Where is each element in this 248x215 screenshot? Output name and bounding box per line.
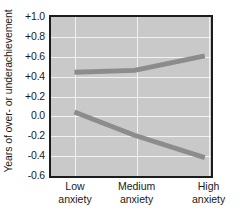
series-lines	[51, 17, 211, 176]
x-tick-label: Mediumanxiety	[118, 180, 155, 206]
y-tick-label: +0.8	[25, 30, 45, 42]
x-tick-label-line2: anxiety	[58, 193, 91, 206]
y-axis-tick-labels: +1.0+0.8+0.6+0.4+0.20.0-0.2-0.4-0.6	[14, 14, 47, 178]
y-axis-title-text: Years of over- or underachievement	[2, 9, 14, 172]
y-tick-label: +0.2	[25, 90, 45, 102]
y-tick-label: -0.4	[28, 149, 45, 161]
series-line-lower-series	[74, 112, 204, 158]
x-tick-label-line1: Medium	[118, 180, 155, 192]
y-tick-label: -0.2	[28, 129, 45, 141]
plot-area	[49, 15, 213, 178]
x-tick-label-line1: Low	[65, 180, 84, 192]
y-tick-label: +0.6	[25, 50, 45, 62]
x-tick-label-line2: anxiety	[118, 193, 155, 206]
plot-inner	[51, 17, 211, 176]
y-tick-label: +0.4	[25, 70, 45, 82]
y-tick-label: +1.0	[25, 10, 45, 22]
x-tick-label-line2: anxiety	[192, 193, 225, 206]
y-tick-label: -0.6	[28, 169, 45, 181]
chart-figure: Years of over- or underachievement +1.0+…	[0, 0, 248, 215]
x-tick-label: Lowanxiety	[58, 180, 91, 206]
x-axis-tick-labels: LowanxietyMediumanxietyHighanxiety	[49, 180, 213, 215]
x-tick-label-line1: High	[198, 180, 220, 192]
series-line-upper-series	[74, 56, 204, 72]
x-tick-label: Highanxiety	[192, 180, 225, 206]
y-tick-label: 0.0	[31, 109, 45, 121]
